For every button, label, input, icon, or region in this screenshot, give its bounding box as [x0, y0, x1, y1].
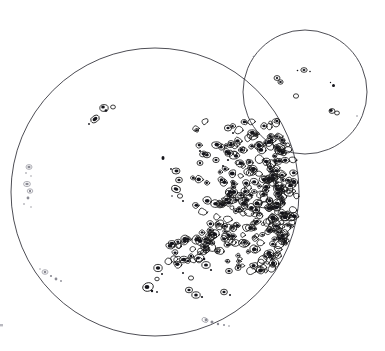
spot-core — [222, 291, 225, 294]
spot-core — [173, 187, 179, 192]
spot-outline — [177, 194, 182, 198]
spot-core — [209, 222, 213, 225]
spot-core — [264, 160, 269, 164]
spot-core — [156, 291, 158, 293]
spot-core — [182, 200, 184, 202]
spot-outline — [190, 247, 196, 252]
group-chain-mid — [170, 168, 184, 202]
solar-disk-figure: Two overlapping circular disk outlines d… — [0, 0, 385, 351]
spot-core — [275, 181, 278, 183]
spot-core — [151, 290, 153, 292]
group-west-limb — [23, 165, 33, 208]
spot-outline — [266, 262, 269, 265]
spot-core — [196, 256, 200, 259]
spot-core — [225, 150, 229, 153]
spot-core — [269, 254, 273, 257]
spot-core — [238, 260, 240, 262]
spot-core — [198, 144, 201, 147]
spot-core — [237, 254, 239, 256]
spot-core — [243, 121, 247, 124]
spot-core — [225, 145, 227, 147]
spot-core — [220, 178, 224, 181]
spot-core — [202, 152, 206, 155]
spot-faint-core — [44, 271, 47, 274]
spot-core — [272, 206, 275, 208]
spot-core — [162, 156, 165, 160]
spot-core — [228, 190, 233, 194]
spot-core — [283, 159, 287, 162]
spot-core — [252, 180, 256, 183]
spot-faint-core — [27, 166, 30, 168]
spot-core — [229, 195, 232, 198]
spot-core — [185, 238, 189, 241]
spot-core — [195, 204, 199, 207]
spot-core — [205, 199, 210, 203]
spot-core — [271, 243, 274, 246]
spot-core — [199, 162, 201, 164]
spot-core — [243, 241, 246, 244]
spot-core — [244, 198, 247, 201]
spot-outline — [190, 258, 197, 263]
spot-core — [197, 178, 201, 182]
group-northwest — [88, 105, 115, 125]
spot-core — [145, 285, 150, 289]
spot-core — [176, 241, 179, 243]
spot-core — [187, 289, 190, 292]
spot-outline — [198, 208, 207, 215]
spot-core — [224, 168, 227, 171]
spot-core — [276, 135, 279, 137]
spot-faint-core — [228, 325, 230, 327]
spot-faint-core — [23, 203, 25, 205]
spot-faint-core — [205, 319, 208, 322]
spot-core — [274, 225, 278, 228]
spot-core — [281, 179, 284, 181]
spot-core — [229, 294, 231, 296]
spot-core — [280, 196, 283, 198]
spot-core — [198, 239, 203, 243]
spot-core — [186, 260, 189, 262]
spot-core — [182, 258, 187, 262]
spot-core — [243, 190, 247, 193]
spot-faint-core — [25, 172, 27, 174]
spot-core — [226, 260, 229, 262]
spot-core — [156, 266, 160, 270]
spot-core — [282, 142, 285, 144]
spot-core — [329, 109, 332, 112]
spot-outline — [293, 94, 298, 98]
spot-faint-core — [253, 56, 255, 58]
spot-core — [238, 208, 242, 211]
spot-faint-core — [27, 197, 30, 200]
spot-core — [285, 212, 287, 214]
spot-outline — [202, 119, 208, 125]
spot-core — [230, 172, 235, 176]
spot-core — [232, 186, 235, 188]
spot-core — [171, 195, 173, 197]
group-southwest-limb — [39, 268, 62, 282]
spot-core — [292, 180, 297, 184]
spot-core — [175, 170, 179, 173]
spot-core — [309, 71, 311, 73]
spot-outline — [294, 193, 299, 199]
spot-core — [170, 168, 172, 170]
spot-core — [275, 169, 279, 172]
spot-faint-core — [29, 190, 31, 192]
spot-outline — [230, 206, 234, 210]
spot-core — [201, 231, 204, 233]
spot-faint-core — [39, 268, 40, 269]
spot-core — [268, 199, 272, 202]
spot-core — [215, 143, 220, 147]
spot-core — [226, 127, 229, 130]
spot-core — [265, 186, 268, 188]
spot-core — [253, 190, 256, 192]
spot-core — [212, 232, 217, 236]
spot-core — [174, 251, 177, 254]
spot-core — [275, 146, 278, 149]
spot-outline — [256, 171, 263, 176]
spot-outline — [335, 111, 340, 115]
spot-core — [269, 135, 272, 137]
spot-core — [170, 242, 174, 246]
spot-core — [227, 201, 232, 205]
spot-core — [227, 234, 230, 237]
small-disk-limb — [243, 30, 367, 154]
group-small-disk-spots — [253, 56, 358, 117]
